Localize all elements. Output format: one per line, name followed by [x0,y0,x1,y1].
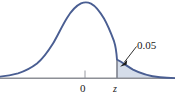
annotation-leader-line [125,47,137,63]
tail-area-label: 0.05 [137,40,156,51]
critical-value-axis-label: z [113,84,117,94]
normal-curve-figure: 0 z 0.05 [0,0,175,101]
mean-axis-label: 0 [80,83,86,94]
